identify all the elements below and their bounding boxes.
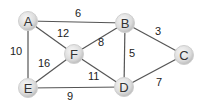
edge-weight-E-D: 9 (67, 90, 73, 102)
edge-weight-B-F: 8 (98, 36, 104, 48)
node-B: B (116, 14, 135, 33)
edge-weight-F-E: 16 (38, 57, 50, 69)
node-label: F (70, 47, 78, 62)
nodes-layer: ABCDEF (19, 12, 194, 98)
node-E: E (19, 79, 38, 98)
node-A: A (19, 12, 38, 31)
edge-E-D (28, 87, 124, 88)
node-D: D (115, 78, 134, 97)
edge-weight-F-D: 11 (88, 70, 99, 82)
node-label: E (24, 81, 33, 96)
node-label: A (24, 14, 33, 29)
edge-weight-B-C: 3 (155, 25, 161, 37)
node-F: F (65, 45, 84, 64)
edge-weight-A-F: 12 (57, 27, 69, 39)
edge-A-B (28, 21, 125, 23)
node-label: C (179, 48, 188, 63)
edge-weight-B-D: 5 (129, 47, 135, 59)
edge-D-C (124, 55, 184, 87)
graph-diagram: 61210835161197 ABCDEF (0, 0, 200, 108)
edge-weight-A-B: 6 (75, 7, 81, 19)
edge-weight-A-E: 10 (10, 45, 22, 57)
node-label: B (121, 16, 130, 31)
edge-weight-D-C: 7 (156, 76, 162, 88)
node-label: D (119, 80, 128, 95)
node-C: C (175, 46, 194, 65)
